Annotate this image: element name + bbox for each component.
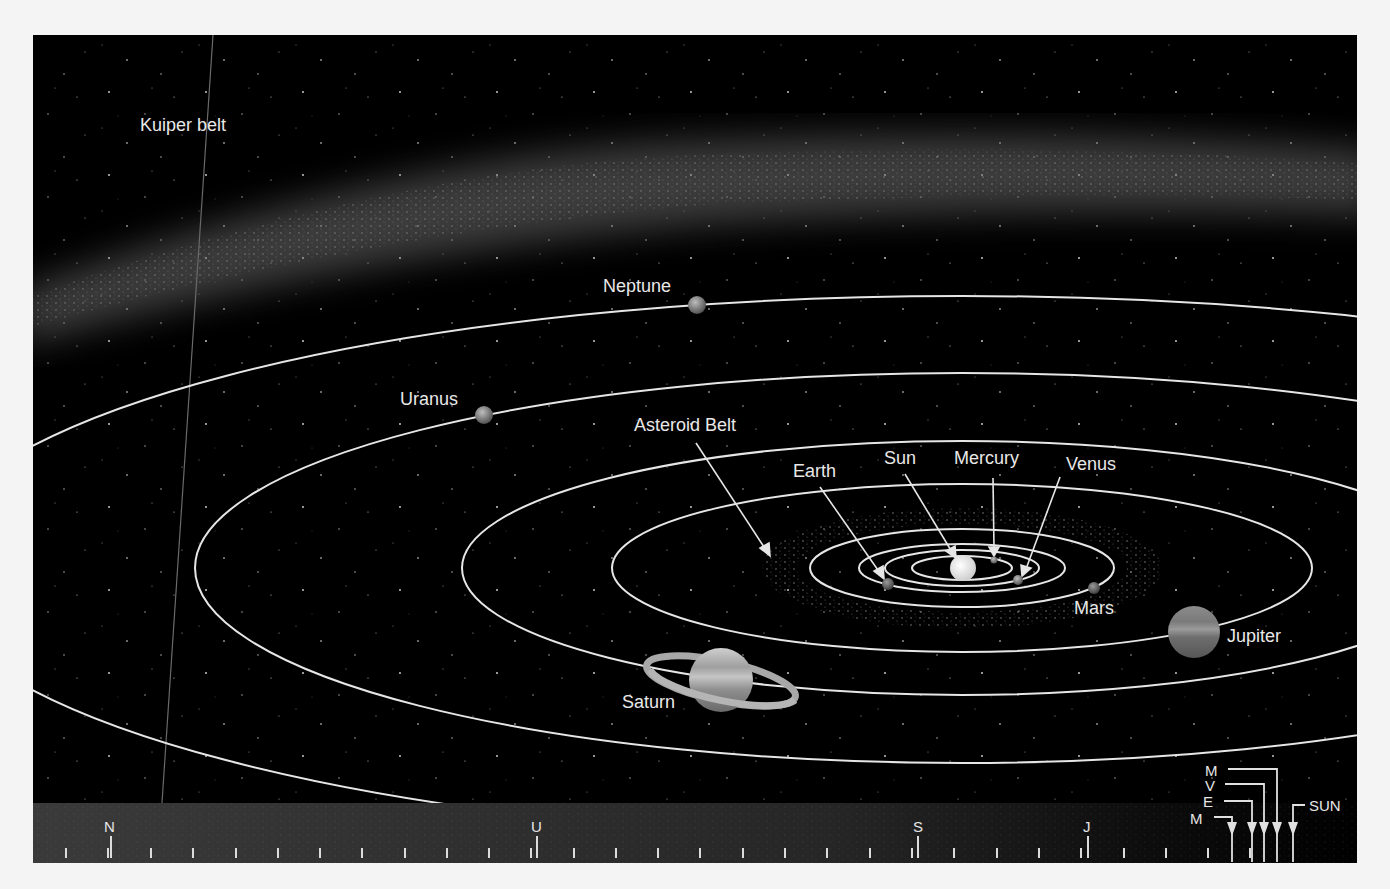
mars-label: Mars — [1074, 598, 1114, 619]
kuiper-belt-label: Kuiper belt — [140, 115, 226, 136]
sun-icon — [950, 555, 976, 581]
solar-system-diagram: Kuiper belt Neptune Uranus Asteroid Belt… — [33, 35, 1357, 863]
venus-icon — [1013, 575, 1023, 585]
scale-marker-jupiter: J — [1083, 818, 1091, 835]
scale-marker-earth: E — [1203, 793, 1213, 810]
sun-label: Sun — [884, 448, 916, 469]
mercury-icon — [991, 557, 998, 564]
scale-marker-neptune: N — [104, 818, 115, 835]
venus-label: Venus — [1066, 454, 1116, 475]
saturn-label: Saturn — [622, 692, 675, 713]
scale-marker-sun: SUN — [1309, 797, 1341, 814]
neptune-icon — [688, 296, 706, 314]
jupiter-icon — [1168, 606, 1220, 658]
scale-marker-saturn: S — [913, 818, 923, 835]
neptune-label: Neptune — [603, 276, 671, 297]
diagram-graphics — [33, 35, 1357, 863]
uranus-icon — [475, 406, 493, 424]
earth-icon — [882, 578, 894, 590]
asteroid-belt-label: Asteroid Belt — [634, 415, 736, 436]
uranus-label: Uranus — [400, 389, 458, 410]
earth-label: Earth — [793, 461, 836, 482]
scale-marker-mercury: M — [1190, 810, 1203, 827]
mars-icon — [1088, 582, 1100, 594]
scale-marker-uranus: U — [531, 818, 542, 835]
mercury-label: Mercury — [954, 448, 1019, 469]
jupiter-label: Jupiter — [1227, 626, 1281, 647]
scale-marker-venus: V — [1205, 777, 1215, 794]
